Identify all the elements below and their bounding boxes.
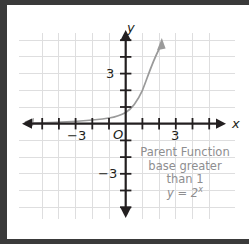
annotation-line-1: Parent Function bbox=[131, 146, 239, 160]
coordinate-plane-svg bbox=[7, 5, 249, 239]
origin-label: O bbox=[113, 128, 123, 141]
annotation-line-2: base greater bbox=[131, 160, 239, 174]
equation-left-side: y = 2 bbox=[167, 186, 198, 200]
annotation-block: Parent Function base greater than 1 y = … bbox=[131, 146, 239, 200]
x-axis-arrow-left bbox=[22, 119, 32, 129]
x-axis-label: x bbox=[232, 117, 240, 130]
equation-exponent: x bbox=[198, 185, 203, 194]
x-axis-arrow-right bbox=[216, 119, 226, 129]
x-axis bbox=[22, 118, 226, 129]
x-tick-label-neg3: −3 bbox=[67, 129, 86, 142]
y-axis-arrow-down bbox=[121, 208, 131, 218]
y-tick-label-neg3: −3 bbox=[98, 167, 117, 180]
graph-plate: y x O −3 3 3 −3 Parent Function base gre… bbox=[7, 5, 249, 239]
exponential-curve bbox=[25, 38, 166, 127]
annotation-equation: y = 2x bbox=[131, 187, 239, 201]
figure-frame: y x O −3 3 3 −3 Parent Function base gre… bbox=[0, 0, 249, 244]
annotation-line-3: than 1 bbox=[131, 173, 239, 187]
y-axis-label: y bbox=[127, 21, 135, 34]
y-tick-label-3: 3 bbox=[106, 67, 114, 80]
x-tick-label-3: 3 bbox=[171, 129, 179, 142]
graph-canvas: y x O −3 3 3 −3 Parent Function base gre… bbox=[7, 5, 249, 239]
